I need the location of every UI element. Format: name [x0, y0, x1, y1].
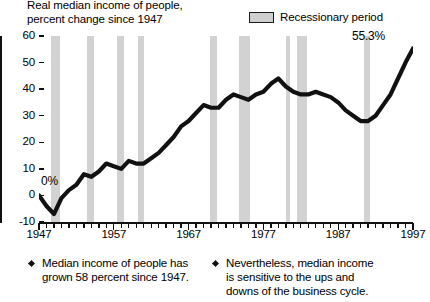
x-tick-1993	[382, 223, 383, 228]
diamond-bullet-icon	[212, 259, 219, 266]
x-tick-1951	[68, 223, 69, 228]
y-tick-label-50: 50	[1, 56, 35, 68]
annotation-start-value: 0%	[41, 174, 58, 188]
x-tick-1982	[300, 223, 301, 228]
y-tick-label-40: 40	[1, 82, 35, 94]
chart-title: Real median income of people, percent ch…	[27, 0, 237, 26]
x-tick-label-1967: 1967	[166, 228, 212, 240]
x-tick-1981	[293, 223, 294, 228]
footnote-right-line-3: downs of the business cycle.	[226, 284, 413, 298]
x-tick-1961	[143, 223, 144, 228]
y-tick-label-60: 60	[1, 29, 35, 41]
x-tick-1962	[151, 223, 152, 228]
footnote-right: Nevertheless, median income is sensitive…	[213, 256, 413, 298]
x-tick-label-1957: 1957	[91, 228, 137, 240]
y-tick-label-0: 0	[1, 188, 35, 200]
chart-legend: Recessionary period	[249, 11, 383, 23]
footnote-right-item: Nevertheless, median income is sensitive…	[213, 256, 413, 298]
y-tick-label-10: 10	[1, 162, 35, 174]
footnote-right-line-1: Nevertheless, median income	[226, 256, 413, 270]
data-line-svg	[39, 36, 413, 223]
footnote-left-line-2: grown 58 percent since 1947.	[42, 270, 211, 284]
chart-title-line-2: percent change since 1947	[27, 13, 237, 27]
x-tick-label-1987: 1987	[315, 228, 361, 240]
chart-title-line-1: Real median income of people,	[27, 0, 237, 13]
x-tick-1971	[218, 223, 219, 228]
x-tick-1973	[233, 223, 234, 228]
diamond-bullet-icon	[28, 259, 35, 266]
annotation-end-value: 55.3%	[352, 29, 385, 43]
legend-swatch-recession-icon	[249, 12, 274, 23]
x-tick-label-1997: 1997	[390, 228, 430, 240]
footnote-right-line-2: is sensitive to the ups and	[226, 270, 413, 284]
x-tick-label-1977: 1977	[240, 228, 286, 240]
footnote-left: Median income of people has grown 58 per…	[29, 256, 211, 284]
x-tick-1952	[76, 223, 77, 228]
x-tick-1953	[83, 223, 84, 228]
y-tick-label--10: -10	[1, 215, 35, 227]
x-tick-1972	[225, 223, 226, 228]
y-tick-label-20: 20	[1, 135, 35, 147]
x-tick-1983	[308, 223, 309, 228]
footnote-left-item: Median income of people has grown 58 per…	[29, 256, 211, 284]
legend-label-recession: Recessionary period	[280, 11, 383, 23]
x-tick-1963	[158, 223, 159, 228]
x-tick-1991	[367, 223, 368, 228]
x-tick-label-1947: 1947	[16, 228, 62, 240]
footnote-left-line-1: Median income of people has	[42, 256, 211, 270]
x-tick-1992	[375, 223, 376, 228]
y-tick-label-30: 30	[1, 109, 35, 121]
income-series-line	[39, 48, 413, 214]
